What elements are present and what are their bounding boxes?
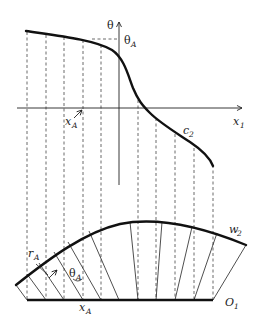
theta-A-sub: A — [130, 40, 137, 49]
xA-bottom-sub: A — [85, 307, 92, 316]
x1-axis-sub: 1 — [240, 121, 245, 130]
radial-line — [175, 227, 192, 300]
rA-sub: A — [33, 253, 40, 262]
radial-line — [213, 245, 246, 300]
thetaA-bottom-sub: A — [75, 273, 82, 282]
thetaA-bottom-label: θ — [69, 267, 76, 280]
curve-c2 — [26, 31, 213, 166]
radial-line — [194, 233, 217, 300]
radial-line — [130, 222, 138, 300]
radial-line — [89, 231, 119, 300]
xA-top-label: x — [65, 115, 72, 128]
O1-label: O — [225, 296, 234, 309]
projection-lines — [27, 32, 213, 300]
radial-line — [156, 222, 162, 300]
radial-line — [39, 263, 64, 300]
O1-sub: 1 — [234, 302, 239, 311]
x1-axis-label: x — [233, 115, 240, 128]
c2-sub: 2 — [188, 130, 194, 139]
xA-top-sub: A — [71, 121, 78, 130]
radial-line — [16, 285, 27, 300]
theta-axis-label: θ — [107, 19, 114, 32]
theta-A-label: θ — [124, 34, 131, 47]
xA-bottom-label: x — [79, 301, 86, 314]
w2-sub: 2 — [236, 229, 242, 238]
rA-arrow — [49, 270, 57, 278]
diagram-canvas: θ θ A x 1 x A c 2 w 2 r A θ A x A O 1 — [0, 0, 259, 329]
radial-line — [27, 274, 46, 300]
xA-pointer-arrow — [74, 110, 82, 118]
